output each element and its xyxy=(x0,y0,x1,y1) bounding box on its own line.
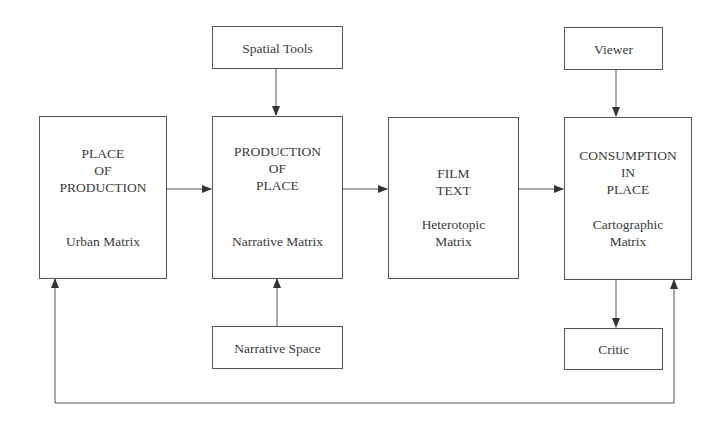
node-title: PRODUCTION OF PLACE xyxy=(213,143,342,194)
node-label: Spatial Tools xyxy=(213,39,342,56)
node-production-of-place: PRODUCTION OF PLACE Narrative Matrix xyxy=(212,116,343,279)
node-title: PLACE OF PRODUCTION xyxy=(40,145,166,196)
node-place-of-production: PLACE OF PRODUCTION Urban Matrix xyxy=(39,116,167,279)
node-spatial-tools: Spatial Tools xyxy=(212,26,343,69)
node-subtitle: Narrative Matrix xyxy=(213,233,342,250)
node-title: FILM TEXT xyxy=(389,165,518,199)
node-title: CONSUMPTION IN PLACE xyxy=(565,147,691,198)
node-label: Viewer xyxy=(565,40,662,57)
node-label: Narrative Space xyxy=(213,339,342,356)
node-subtitle: Urban Matrix xyxy=(40,233,166,250)
node-critic: Critic xyxy=(564,328,663,370)
node-viewer: Viewer xyxy=(564,27,663,70)
node-label: Critic xyxy=(565,341,662,358)
node-consumption-in-place: CONSUMPTION IN PLACE Cartographic Matrix xyxy=(564,117,692,280)
node-film-text: FILM TEXT Heterotopic Matrix xyxy=(388,117,519,279)
node-subtitle: Heterotopic Matrix xyxy=(389,216,518,250)
node-subtitle: Cartographic Matrix xyxy=(565,216,691,250)
node-narrative-space: Narrative Space xyxy=(212,326,343,369)
